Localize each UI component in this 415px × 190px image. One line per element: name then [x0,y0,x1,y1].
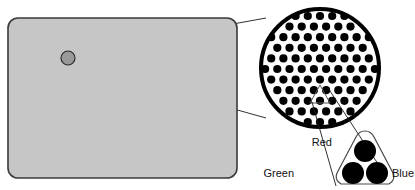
phosphor-dot [298,65,306,73]
phosphor-dot [304,76,312,84]
phosphor-dot [340,54,348,62]
sampled-screen-spot [61,51,75,65]
phosphor-dot [334,23,342,31]
phosphor-dot [267,54,275,62]
phosphor-dot [304,33,312,41]
phosphor-dot [346,86,354,94]
phosphor-dot [279,54,287,62]
phosphor-dot [334,65,342,73]
phosphor-dot [292,76,300,84]
phosphor-dot [279,33,287,41]
phosphor-dot [316,54,324,62]
phosphor-dot [359,86,367,94]
phosphor-dot [316,76,324,84]
phosphor-dot [310,23,318,31]
green-phosphor-dot [342,162,364,184]
phosphor-dot [316,33,324,41]
phosphor-dot [292,97,300,105]
phosphor-dot [365,54,373,62]
phosphor-dot [359,65,367,73]
figure-root: Red Green Blue [0,0,415,190]
label-green: Green [263,167,294,179]
display-screen [8,18,237,178]
phosphor-dot [328,33,336,41]
phosphor-dot [273,44,281,52]
phosphor-dot [322,65,330,73]
phosphor-dot [322,44,330,52]
phosphor-dot [353,33,361,41]
phosphor-dot [279,76,287,84]
phosphor-dot [328,12,336,20]
phosphor-dot [365,76,373,84]
phosphor-dot [285,65,293,73]
magnified-dot-field [261,9,379,127]
phosphor-dot [304,12,312,20]
phosphor-dot [346,44,354,52]
phosphor-dot [298,107,306,115]
phosphor-dot [298,23,306,31]
phosphor-dot [353,54,361,62]
phosphor-dot [316,12,324,20]
phosphor-dot [359,44,367,52]
phosphor-dot [340,97,348,105]
phosphor-dot [346,23,354,31]
label-red: Red [312,136,332,148]
phosphor-dot [310,65,318,73]
phosphor-dot [322,107,330,115]
phosphor-dot [273,86,281,94]
phosphor-dot [340,33,348,41]
phosphor-dot [334,44,342,52]
phosphor-dot [316,97,324,105]
phosphor-dot [273,65,281,73]
phosphor-dot [292,54,300,62]
phosphor-dot [292,33,300,41]
phosphor-dot [285,23,293,31]
phosphor-dot [353,97,361,105]
red-phosphor-dot [354,140,376,162]
phosphor-dot [298,44,306,52]
phosphor-dot [298,86,306,94]
phosphor-dot [340,76,348,84]
phosphor-dot [279,97,287,105]
phosphor-dot [267,76,275,84]
phosphor-dot [328,54,336,62]
label-blue: Blue [392,167,414,179]
phosphor-dot [346,65,354,73]
phosphor-dot [322,23,330,31]
phosphor-dot [304,54,312,62]
phosphor-dot [353,76,361,84]
phosphor-dot [310,44,318,52]
phosphor-dot [328,76,336,84]
blue-phosphor-dot [366,162,388,184]
phosphor-dot [334,86,342,94]
phosphor-dot [285,44,293,52]
crt-phosphor-diagram: Red Green Blue [0,0,415,190]
phosphor-dot [285,86,293,94]
